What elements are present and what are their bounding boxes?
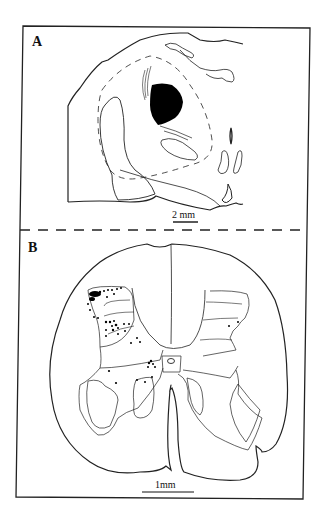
panel-b-label: B: [28, 240, 37, 256]
figure-drawing: [0, 0, 324, 521]
panel-a-label: A: [32, 34, 42, 50]
figure: A 2 mm B 1mm: [0, 0, 324, 521]
panel-a-drawing: [68, 33, 243, 210]
panel-b-scale-label: 1mm: [155, 479, 176, 490]
panel-b-drawing: [50, 244, 288, 480]
panel-a-scale-label: 2 mm: [172, 209, 195, 220]
